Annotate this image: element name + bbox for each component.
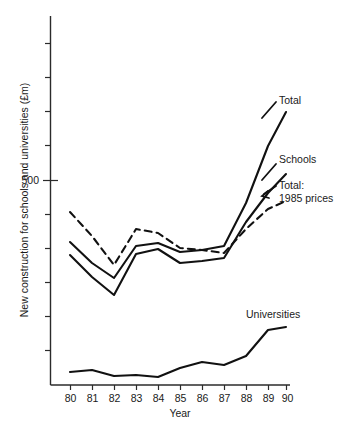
- series-label-total-1985-line1: Total:: [279, 179, 304, 191]
- x-tick-label-81: 81: [87, 392, 99, 404]
- x-tick-label-82: 82: [109, 392, 121, 404]
- x-axis-ticks: [71, 385, 287, 390]
- series-line-total: [70, 112, 286, 278]
- series-label-total: Total: [279, 94, 301, 106]
- x-tick-label-83: 83: [131, 392, 143, 404]
- y-axis-title: New construction for schools and univers…: [18, 83, 30, 318]
- x-tick-label-89: 89: [263, 392, 275, 404]
- line-chart: 500 80 81 82 83 84 85 86 87 88 89 90 Yea…: [0, 0, 343, 425]
- series-line-universities: [70, 327, 286, 377]
- x-tick-label-88: 88: [241, 392, 253, 404]
- x-tick-label-84: 84: [153, 392, 165, 404]
- leader-line-schools: [262, 164, 276, 180]
- x-tick-label-85: 85: [175, 392, 187, 404]
- x-tick-label-80: 80: [65, 392, 77, 404]
- x-tick-label-86: 86: [197, 392, 209, 404]
- series-label-schools: Schools: [279, 153, 316, 165]
- chart-figure: 500 80 81 82 83 84 85 86 87 88 89 90 Yea…: [0, 0, 343, 425]
- x-axis-title: Year: [169, 407, 191, 419]
- x-tick-label-90: 90: [282, 392, 294, 404]
- x-tick-label-87: 87: [219, 392, 231, 404]
- series-line-schools: [70, 174, 286, 295]
- series-label-universities: Universities: [246, 308, 300, 320]
- series-label-total-1985-line2: 1985 prices: [279, 192, 333, 204]
- leader-line-total: [262, 102, 276, 118]
